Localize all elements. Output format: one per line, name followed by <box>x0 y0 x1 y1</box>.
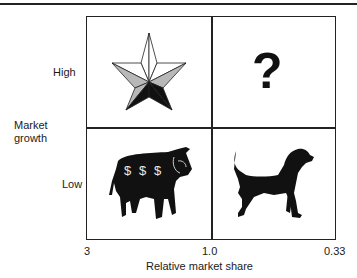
y-axis-title-line2: growth <box>14 132 48 145</box>
y-axis-title-line1: Market <box>14 119 48 132</box>
y-tick-low: Low <box>62 178 82 191</box>
dollar-sign-2: $ <box>139 163 147 178</box>
star-icon <box>104 30 194 120</box>
dollar-sign-1: $ <box>124 163 132 178</box>
horizontal-divider <box>86 127 336 129</box>
y-axis-title: Market growth <box>14 119 48 145</box>
x-axis-title: Relative market share <box>146 260 253 272</box>
dollar-sign-3: $ <box>154 163 162 178</box>
x-tick-left: 3 <box>84 245 90 257</box>
y-tick-high: High <box>53 66 76 79</box>
x-tick-mid: 1.0 <box>202 245 217 257</box>
question-mark-icon: ? <box>252 46 283 96</box>
dog-icon <box>228 143 318 223</box>
top-rule <box>0 3 357 5</box>
cash-cow-icon: $ $ $ <box>106 143 196 223</box>
x-tick-right: 0.33 <box>324 245 345 257</box>
